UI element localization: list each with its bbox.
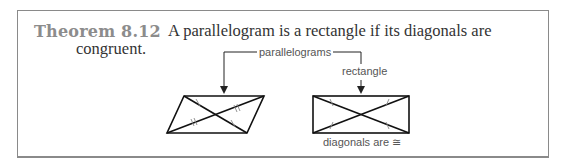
arrowheads (220, 86, 365, 94)
parallelograms-label: parallelograms (259, 46, 331, 58)
parallelogram-shape (167, 96, 264, 133)
arrow-down-icon (357, 86, 365, 94)
rectangle-shape (313, 96, 409, 133)
diagonals-caption: diagonals are ≅ (323, 136, 401, 149)
arrow-down-icon (220, 86, 228, 94)
parallelogram-tick-marks (191, 99, 240, 127)
rectangle-label: rectangle (342, 65, 387, 77)
figure-diagram (0, 0, 568, 163)
